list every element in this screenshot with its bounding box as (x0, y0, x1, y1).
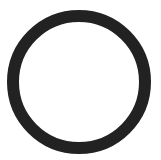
circle-ring-icon (13, 16, 145, 148)
canvas (0, 0, 161, 160)
